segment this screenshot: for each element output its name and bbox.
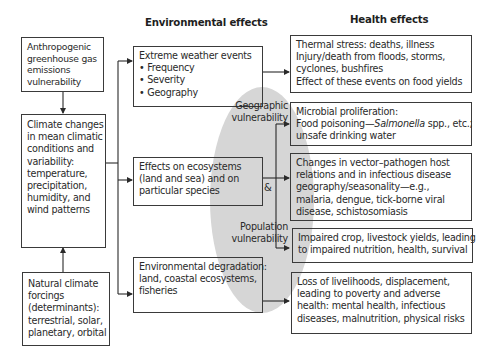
box-text: emissions [27, 64, 98, 76]
box-text: spp., etc.; [425, 118, 473, 129]
box-text: (land and sea) and on [139, 173, 257, 185]
population-vulnerability-label: Population vulnerability [222, 221, 288, 245]
box-title: Extreme weather events [139, 50, 257, 62]
box-text: health: mental health, infectious [297, 300, 466, 312]
microbial-proliferation-box: Microbial proliferation: Food poisoning—… [290, 102, 472, 146]
salmonella-italic: Salmonella [374, 118, 425, 129]
box-text: geography/seasonality—e.g., [296, 181, 466, 193]
impaired-crop-box: Impaired crop, livestock yields, leading… [292, 228, 473, 263]
box-text: fisheries [139, 285, 257, 297]
box-text: Microbial proliferation: [296, 106, 466, 118]
box-text: (determinants): [28, 302, 104, 314]
bullet-frequency: Frequency [139, 62, 257, 74]
box-text: unsafe drinking water [296, 130, 466, 142]
box-text: Natural climate [28, 278, 104, 290]
box-text: Thermal stress: deaths, illness [296, 39, 466, 51]
label-text: Geographic [222, 100, 288, 112]
box-text: vulnerability [27, 76, 98, 88]
anthropogenic-emissions-box: Anthropogenic greenhouse gas emissions v… [21, 37, 104, 92]
box-text: Injury/death from floods, storms, [296, 51, 466, 63]
box-text: land, coastal ecosystems, [139, 273, 257, 285]
health-effects-header: Health effects [350, 14, 428, 25]
box-text: Effects on ecosystems [139, 161, 257, 173]
environmental-effects-header: Environmental effects [145, 17, 268, 28]
box-text: Environmental degradation: [139, 261, 257, 273]
label-text: vulnerability [222, 233, 288, 245]
extreme-weather-box: Extreme weather events Frequency Severit… [133, 46, 263, 107]
box-text: planetary, orbital [28, 327, 104, 339]
label-text: vulnerability [222, 112, 288, 124]
box-text: variability: [27, 156, 100, 168]
vector-pathogen-box: Changes in vector–pathogen host relation… [290, 153, 472, 221]
geographic-vulnerability-label: Geographic vulnerability [222, 100, 288, 124]
box-text: in mean climatic [27, 131, 100, 143]
box-text: cyclones, bushfires [296, 63, 466, 75]
box-text: Loss of livelihoods, displacement, [297, 276, 466, 288]
thermal-stress-box: Thermal stress: deaths, illness Injury/d… [290, 35, 472, 93]
box-text: disease, schistosomiasis [296, 206, 466, 218]
box-text: temperature, [27, 168, 100, 180]
box-text: greenhouse gas [27, 53, 98, 65]
box-text: wind patterns [27, 204, 100, 216]
box-text: forcings [28, 290, 104, 302]
box-text: Food poisoning— [296, 118, 374, 129]
ampersand-label: & [264, 182, 272, 193]
environmental-degradation-box: Environmental degradation: land, coastal… [133, 257, 263, 313]
bullet-geography: Geography [139, 87, 257, 99]
box-text: diseases, malnutrition, physical risks [297, 313, 466, 325]
box-text: Impaired crop, livestock yields, leading [298, 232, 467, 244]
box-text: relations and in infectious disease [296, 169, 466, 181]
box-text: leading to poverty and adverse [297, 288, 466, 300]
box-text: precipitation, [27, 180, 100, 192]
box-text: Climate changes [27, 119, 100, 131]
natural-forcings-box: Natural climate forcings (determinants):… [22, 272, 110, 346]
box-text: particular species [139, 185, 257, 197]
box-text: to impaired nutrition, health, survival [298, 244, 467, 256]
box-text: Effect of these events on food yields [296, 76, 466, 88]
box-text: Changes in vector–pathogen host [296, 157, 466, 169]
climate-changes-box: Climate changes in mean climatic conditi… [21, 114, 106, 248]
box-text: conditions and [27, 143, 100, 155]
bullet-severity: Severity [139, 74, 257, 86]
climate-health-diagram: Environmental effects Health effects Ant… [0, 0, 495, 361]
food-poisoning-line: Food poisoning—Salmonella spp., etc.; [296, 118, 466, 130]
box-text: humidity, and [27, 192, 100, 204]
ecosystems-box: Effects on ecosystems (land and sea) and… [133, 157, 263, 206]
label-text: Population [222, 221, 288, 233]
box-text: Anthropogenic [27, 41, 98, 53]
box-text: malaria, dengue, tick-borne viral [296, 194, 466, 206]
loss-of-livelihoods-box: Loss of livelihoods, displacement, leadi… [291, 272, 472, 334]
box-text: terrestrial, solar, [28, 315, 104, 327]
